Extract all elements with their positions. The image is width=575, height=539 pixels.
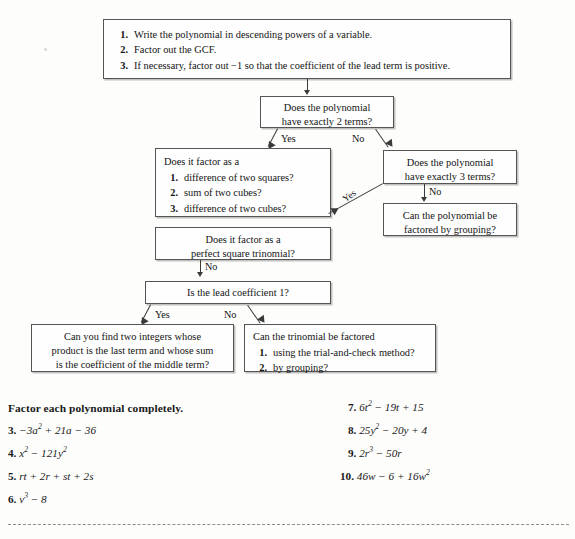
flowchart-box-three-terms: Does the polynomial have exactly 3 terms… — [383, 150, 517, 184]
flowchart-box-start: 1. Write the polynomial in descending po… — [103, 19, 511, 79]
exercise-4-expression: x2 − 121y2 — [19, 447, 67, 459]
factor-as-item-2-number: 2. — [164, 186, 178, 200]
start-step-3-text: If necessary, factor out −1 so that the … — [134, 59, 500, 73]
three-terms-line-2: have exactly 3 terms? — [388, 170, 512, 184]
factor-as-item-3: 3. difference of two cubes? — [164, 202, 322, 216]
factor-as-item-3-text: difference of two cubes? — [184, 202, 322, 216]
arrowhead-perfect-square-no-icon — [197, 272, 203, 277]
label-two-terms-yes: Yes — [281, 133, 296, 144]
exercise-9-number: 9. — [348, 447, 356, 459]
arrowhead-three-terms-no-icon — [421, 197, 427, 202]
factor-as-item-1: 1. difference of two squares? — [164, 171, 322, 185]
two-integers-line-3: is the coefficient of the middle term? — [37, 358, 228, 372]
exercise-5-number: 5. — [8, 470, 16, 482]
lead-coefficient-line-1: Is the lead coefficient 1? — [150, 286, 326, 300]
start-step-3-number: 3. — [114, 59, 128, 73]
exercise-item-6: 6. v3 − 8 — [8, 493, 47, 505]
flowchart-box-two-terms: Does the polynomial have exactly 2 terms… — [260, 96, 394, 128]
flowchart-box-lead-coefficient: Is the lead coefficient 1? — [145, 281, 331, 304]
label-two-terms-no: No — [352, 133, 364, 144]
trinomial-factored-item-2-number: 2. — [253, 361, 267, 375]
two-integers-line-2: product is the last term and whose sum — [37, 344, 228, 358]
exercise-3-number: 3. — [8, 424, 16, 436]
arrowhead-two-terms-no-icon — [385, 139, 396, 149]
label-three-terms-yes: Yes — [340, 187, 358, 204]
start-step-2-text: Factor out the GCF. — [134, 43, 500, 57]
flowchart-box-perfect-square: Does it factor as a perfect square trino… — [155, 227, 331, 260]
exercise-item-8: 8. 25y2 − 20y + 4 — [348, 424, 427, 436]
start-step-2: 2. Factor out the GCF. — [114, 43, 500, 57]
exercise-item-9: 9. 2r3 − 50r — [348, 447, 402, 459]
factor-as-list: 1. difference of two squares? 2. sum of … — [164, 171, 322, 216]
two-terms-line-2: have exactly 2 terms? — [265, 115, 389, 129]
page-smudge — [44, 48, 47, 51]
label-perfect-square-no: No — [205, 261, 217, 272]
factor-as-lead: Does it factor as a — [164, 155, 322, 169]
exercise-4-number: 4. — [8, 447, 16, 459]
flowchart-box-factor-as: Does it factor as a 1. difference of two… — [155, 148, 331, 217]
exercise-6-number: 6. — [8, 493, 16, 505]
exercise-item-10: 10. 46w − 6 + 16w2 — [340, 470, 430, 482]
trinomial-factored-list: 1. using the trial-and-check method? 2. … — [253, 346, 427, 376]
flowchart-box-grouping: Can the polynomial be factored by groupi… — [383, 203, 517, 236]
connector-three-terms-no — [424, 184, 425, 198]
label-lead-yes: Yes — [155, 309, 170, 320]
factor-as-item-2: 2. sum of two cubes? — [164, 186, 322, 200]
start-step-1-number: 1. — [114, 28, 128, 42]
grouping-line-2: factored by grouping? — [388, 223, 512, 237]
section-divider — [8, 524, 569, 525]
two-terms-line-1: Does the polynomial — [265, 101, 389, 115]
factor-as-item-1-number: 1. — [164, 171, 178, 185]
worksheet-page: 1. Write the polynomial in descending po… — [0, 0, 575, 539]
factor-as-item-3-number: 3. — [164, 202, 178, 216]
trinomial-factored-item-1: 1. using the trial-and-check method? — [253, 346, 427, 360]
exercise-7-expression: 6t2 − 19t + 15 — [359, 401, 423, 413]
factor-as-item-1-text: difference of two squares? — [184, 171, 322, 185]
perfect-square-line-1: Does it factor as a — [160, 233, 326, 247]
exercise-item-7: 7. 6t2 − 19t + 15 — [348, 401, 424, 413]
label-three-terms-no: No — [429, 186, 441, 197]
trinomial-factored-lead: Can the trinomial be factored — [253, 330, 427, 344]
start-step-2-number: 2. — [114, 43, 128, 57]
exercise-3-expression: −3a2 + 21a − 36 — [19, 424, 96, 436]
trinomial-factored-item-2-text: by grouping? — [273, 361, 427, 375]
exercise-7-number: 7. — [348, 401, 356, 413]
start-step-list: 1. Write the polynomial in descending po… — [114, 28, 500, 73]
trinomial-factored-item-2: 2. by grouping? — [253, 361, 427, 375]
exercise-6-expression: v3 − 8 — [19, 493, 47, 505]
exercise-9-expression: 2r3 − 50r — [359, 447, 401, 459]
exercise-10-expression: 46w − 6 + 16w2 — [357, 470, 430, 482]
trinomial-factored-item-1-number: 1. — [253, 346, 267, 360]
start-step-1-text: Write the polynomial in descending power… — [134, 28, 500, 42]
exercises-heading: Factor each polynomial completely. — [8, 402, 183, 414]
exercise-5-expression: rt + 2r + st + 2s — [19, 470, 93, 482]
exercise-item-5: 5. rt + 2r + st + 2s — [8, 470, 94, 482]
grouping-line-1: Can the polynomial be — [388, 209, 512, 223]
three-terms-line-1: Does the polynomial — [388, 156, 512, 170]
exercise-10-number: 10. — [340, 470, 354, 482]
label-lead-no: No — [224, 309, 236, 320]
exercise-item-4: 4. x2 − 121y2 — [8, 447, 67, 459]
trinomial-factored-item-1-text: using the trial-and-check method? — [273, 346, 427, 360]
exercise-8-expression: 25y2 − 20y + 4 — [359, 424, 427, 436]
perfect-square-line-2: perfect square trinomial? — [160, 247, 326, 261]
exercise-8-number: 8. — [348, 424, 356, 436]
start-step-3: 3. If necessary, factor out −1 so that t… — [114, 59, 500, 73]
start-step-1: 1. Write the polynomial in descending po… — [114, 28, 500, 42]
flowchart-box-trinomial-factored: Can the trinomial be factored 1. using t… — [244, 324, 436, 372]
arrowhead-start-to-two-terms-icon — [304, 90, 310, 95]
flowchart-box-two-integers: Can you find two integers whose product … — [31, 324, 234, 372]
exercise-item-3: 3. −3a2 + 21a − 36 — [8, 424, 96, 436]
factor-as-item-2-text: sum of two cubes? — [184, 186, 322, 200]
two-integers-line-1: Can you find two integers whose — [37, 330, 228, 344]
